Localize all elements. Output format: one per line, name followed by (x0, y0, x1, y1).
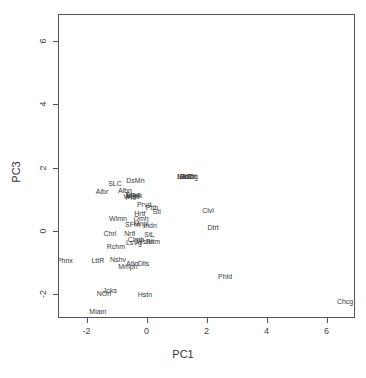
x-axis-title: PC1 (0, 348, 366, 360)
x-axis-tick-label: 4 (264, 326, 269, 336)
y-axis-tick (53, 104, 58, 105)
data-point-label: Jcks (103, 287, 117, 294)
x-axis-tick-label: 2 (204, 326, 209, 336)
y-axis-tick (53, 41, 58, 42)
y-axis-tick-label: 2 (38, 161, 48, 175)
data-point-label: Chrl (103, 229, 116, 236)
x-axis-tick-label: 0 (144, 326, 149, 336)
x-axis-tick-label: -2 (82, 326, 90, 336)
data-point-label: Clvl (202, 207, 214, 214)
data-point-label: Hstn (138, 290, 152, 297)
y-axis-tick (53, 231, 58, 232)
data-point-label: LttR (91, 257, 104, 264)
data-point-label: Chcg (337, 297, 353, 304)
data-point-label: Nshv (110, 256, 126, 263)
data-point-label: Rchm (107, 243, 125, 250)
data-point-label: Albr (96, 188, 108, 195)
y-axis-tick (53, 168, 58, 169)
x-axis-tick (207, 318, 208, 323)
data-point-label: DsMn (126, 176, 144, 183)
data-point-label: Atln (126, 260, 138, 267)
y-axis-tick (53, 294, 58, 295)
data-point-layer: SLCDsMnAlbrAlbnDnvrWchtMlwkPrtlPrvdPttbH… (58, 14, 355, 318)
data-point-label: Prtl (126, 194, 137, 201)
data-point-label: Phnx (58, 257, 73, 264)
data-point-label: Stl (153, 208, 161, 215)
y-axis-tick-label: -2 (38, 287, 48, 301)
data-point-label: Dtrt (207, 224, 218, 231)
data-point-label: Sttl (186, 172, 196, 179)
data-point-label: SLC (108, 179, 122, 186)
data-point-label: Miam (89, 307, 106, 314)
x-axis-tick (327, 318, 328, 323)
y-axis-tick-label: 0 (38, 224, 48, 238)
y-axis-tick-label: 6 (38, 34, 48, 48)
x-axis-tick (267, 318, 268, 323)
x-axis-tick-label: 6 (324, 326, 329, 336)
data-point-label: Bltm (146, 238, 160, 245)
x-axis-tick (87, 318, 88, 323)
y-axis-title: PC3 (10, 142, 22, 202)
data-point-label: Phld (218, 272, 232, 279)
scatter-plot-figure: SLCDsMnAlbrAlbnDnvrWchtMlwkPrtlPrvdPttbH… (0, 0, 366, 378)
x-axis-tick (147, 318, 148, 323)
data-point-label: Dlls (138, 259, 150, 266)
data-point-label: Indn (143, 221, 157, 228)
y-axis-tick-label: 4 (38, 97, 48, 111)
